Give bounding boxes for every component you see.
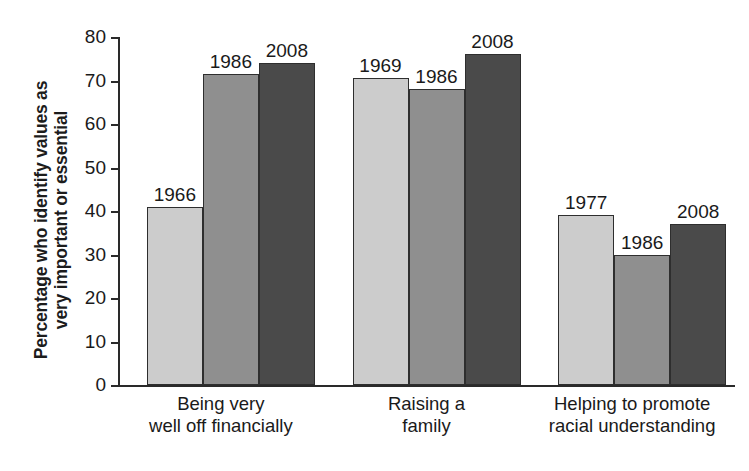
bar-raising-1969: 1969 [353, 78, 409, 385]
y-tick-label: 40 [85, 200, 106, 222]
x-category-label-2: Raising afamily [324, 393, 530, 437]
bar-label: 1986 [620, 232, 664, 254]
y-tick-label: 80 [85, 26, 106, 48]
y-tick-label: 30 [85, 244, 106, 266]
y-tick-mark [111, 342, 119, 344]
bar-label: 2008 [470, 31, 514, 53]
bar-helping-1977: 1977 [558, 215, 614, 385]
x-category-label-line: Raising a [324, 393, 530, 415]
y-tick-mark [111, 385, 119, 387]
x-category-label-line: well off financially [118, 415, 324, 437]
bar-label: 1977 [564, 192, 608, 214]
y-axis-title: Percentage who identify values as very i… [22, 20, 82, 420]
plot-area: 01020304050607080 1966198620081969198620… [118, 37, 735, 385]
y-tick-label: 20 [85, 287, 106, 309]
bar-raising-1986: 1986 [409, 89, 465, 385]
bar-helping-2008: 2008 [670, 224, 726, 385]
bar-being-1986: 1986 [203, 74, 259, 385]
bar-label: 2008 [676, 201, 720, 223]
y-tick-mark [111, 168, 119, 170]
x-axis-line [118, 385, 735, 387]
y-tick-mark [111, 124, 119, 126]
y-tick-mark [111, 81, 119, 83]
bar-label: 1969 [358, 55, 402, 77]
y-tick-label: 60 [85, 113, 106, 135]
y-tick-mark [111, 211, 119, 213]
y-axis-title-line-2: very important or essential [52, 111, 72, 329]
x-category-label-line: family [324, 415, 530, 437]
y-tick-mark [111, 255, 119, 257]
bar-chart: Percentage who identify values as very i… [0, 0, 749, 471]
bar-being-1966: 1966 [147, 207, 203, 385]
bar-label: 1986 [414, 66, 458, 88]
x-category-label-line: racial understanding [529, 415, 735, 437]
y-tick-label: 0 [95, 374, 106, 396]
y-axis-title-line-1: Percentage who identify values as [32, 81, 52, 359]
y-tick-mark [111, 298, 119, 300]
x-category-label-3: Helping to promoteracial understanding [529, 393, 735, 437]
y-tick-label: 50 [85, 157, 106, 179]
x-category-label-1: Being verywell off financially [118, 393, 324, 437]
bar-label: 1966 [153, 184, 197, 206]
bar-helping-1986: 1986 [614, 255, 670, 386]
y-tick-label: 70 [85, 70, 106, 92]
x-category-label-line: Being very [118, 393, 324, 415]
y-tick-label: 10 [85, 331, 106, 353]
x-category-label-line: Helping to promote [529, 393, 735, 415]
bar-label: 2008 [265, 40, 309, 62]
bar-raising-2008: 2008 [465, 54, 521, 385]
y-tick-mark [111, 37, 119, 39]
bar-label: 1986 [209, 51, 253, 73]
bar-being-2008: 2008 [259, 63, 315, 385]
